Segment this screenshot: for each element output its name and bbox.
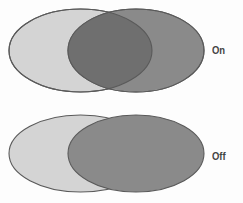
venn-right-ellipse-off [68,115,204,192]
row-label-off: Off [212,150,226,162]
venn-diagram-graphic [0,0,243,203]
venn-row-on [9,9,204,92]
venn-row-off [9,115,204,192]
row-label-on: On [212,44,225,56]
transparency-comparison-figure: On Off [0,0,243,203]
